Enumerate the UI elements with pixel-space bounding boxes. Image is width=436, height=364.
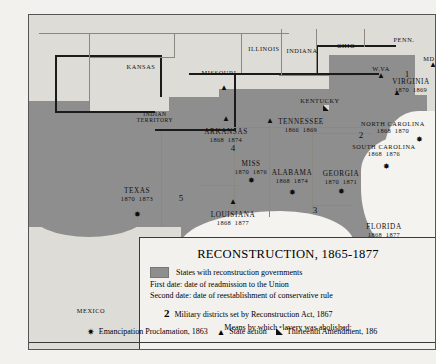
legend-second-date: Second date: date of reestablishment of … (150, 290, 426, 301)
place-name: MEXICO (77, 307, 105, 314)
place-label-missouri: MISSOURI (202, 69, 237, 76)
outline-indian-east (160, 55, 162, 97)
state-name: TENNESSEE (278, 118, 324, 126)
abolition-symbol-north-carolina: ✸ (416, 136, 423, 144)
legend-swatch-row: States with reconstruction governments (150, 267, 426, 278)
place-label-indian-territory: INDIAN TERRITORY (137, 111, 173, 124)
outline-arkansas-east (234, 73, 236, 131)
line-florida-north (312, 205, 352, 206)
state-label-texas: TEXAS1870 1873 (121, 187, 153, 202)
triangle-icon: ▲ (217, 327, 225, 337)
line-kansas-east (174, 33, 175, 57)
abolition-symbol-texas: ✸ (134, 211, 141, 219)
military-district-3: 3 (313, 205, 318, 215)
line-georgia-west (312, 125, 313, 209)
place-label-illinois: ILLINOIS (248, 45, 279, 52)
state-label-louisiana: LOUISIANA1868 1877 (211, 211, 256, 226)
place-label-ohio: OHIO (337, 42, 355, 49)
place-label-kentucky: KENTUCKY (300, 97, 339, 104)
legend-military-label: Military districts set by Reconstruction… (175, 310, 333, 319)
place-name: ILLINOIS (248, 45, 279, 52)
state-name: ALABAMA (272, 169, 313, 177)
state-name: LOUISIANA (211, 211, 256, 219)
legend-symbol-label-2: Thirteenth Amendment, 186 (287, 327, 377, 336)
state-name: TEXAS (121, 187, 153, 195)
legend-first-date: First date: date of readmission to the U… (150, 279, 426, 290)
place-label-penn: PENN. (393, 36, 414, 43)
place-name: OHIO (337, 42, 355, 49)
abolition-symbol-miss: ✸ (248, 177, 255, 185)
state-dates: 1870 1871 (323, 178, 360, 185)
military-district-1: 1 (405, 69, 410, 79)
abolition-symbol-tennessee: ▲ (266, 117, 274, 125)
state-label-arkansas: ARKANSAS1868 1874 (204, 128, 248, 143)
place-label-kansas: KANSAS (127, 63, 156, 70)
line-illinois-west (241, 33, 242, 73)
place-name: KANSAS (127, 63, 156, 70)
military-district-2: 2 (359, 130, 364, 140)
state-label-tennessee: TENNESSEE1866 1869 (278, 118, 324, 133)
state-dates: 1868 1874 (272, 177, 313, 184)
state-dates: 1868 1876 (352, 150, 416, 157)
military-district-4: 4 (231, 143, 236, 153)
abolition-symbol-alabama: ✸ (289, 189, 296, 197)
state-label-south-carolina: SOUTH CAROLINA1868 1876 (352, 143, 416, 157)
state-name: SOUTH CAROLINA (352, 143, 416, 150)
outline-virginia-north (316, 45, 396, 47)
state-dates: 1870 1873 (121, 195, 153, 202)
state-name: FLORIDA (366, 223, 401, 231)
place-label-indiana: INDIANA (286, 47, 317, 54)
place-name: PENN. (393, 36, 414, 43)
map-page: TEXAS1870 1873✸ARKANSAS1868 1874▲LOUISIA… (0, 0, 436, 364)
state-name: GEORGIA (323, 170, 360, 178)
abolition-symbol-missouri: ▲ (220, 84, 228, 92)
state-name: VIRGINIA (392, 78, 430, 86)
abolition-symbol-arkansas: ▲ (222, 115, 230, 123)
line-kansas-west (89, 33, 90, 111)
line-kansas-south (89, 57, 175, 58)
legend-symbol-label-0: Emancipation Proclamation, 1863 (99, 327, 208, 336)
place-name: MISSOURI (202, 69, 237, 76)
line-indiana-west (281, 29, 282, 75)
place-label-mexico: MEXICO (77, 307, 105, 314)
state-dates: 1868 1877 (211, 219, 256, 226)
legend-symbol-label-1: State action (229, 327, 267, 336)
map-plate: TEXAS1870 1873✸ARKANSAS1868 1874▲LOUISIA… (28, 14, 436, 350)
place-name: KENTUCKY (300, 97, 339, 104)
abolition-symbol-virginia: ▲ (393, 89, 401, 97)
line-penn-west (364, 29, 365, 47)
legend-baseline-rule (29, 342, 435, 343)
state-name: MISS (235, 160, 267, 168)
legend-swatch-label: States with reconstruction governments (176, 268, 302, 277)
state-name: NORTH CAROLINA (361, 120, 425, 127)
state-label-alabama: ALABAMA1868 1874 (272, 169, 313, 184)
state-label-north-carolina: NORTH CAROLINA1868 1870 (361, 120, 425, 134)
legend-military-number: 2 (164, 307, 170, 319)
legend-symbol-emancipation: ✷ Emancipation Proclamation, 1863 (87, 327, 208, 337)
state-label-georgia: GEORGIA1870 1871 (323, 170, 360, 185)
legend-military-row: 2 Military districts set by Reconstructi… (164, 307, 426, 319)
legend-symbol-strip: ✷ Emancipation Proclamation, 1863 ▲ Stat… (29, 324, 435, 339)
place-name: INDIAN TERRITORY (137, 111, 173, 124)
line-texas-east (161, 131, 162, 227)
abolition-symbol-w-va: ▲ (377, 72, 385, 80)
legend-symbol-state-action: ▲ State action (217, 327, 267, 337)
abolition-symbol-louisiana: ▲ (229, 198, 237, 206)
state-dates: 1868 1870 (361, 127, 425, 134)
line-louisiana-north (199, 185, 239, 186)
abolition-symbol-md: ▲ (429, 61, 436, 69)
state-name: ARKANSAS (204, 128, 248, 136)
line-kentucky-north (279, 75, 359, 76)
star-icon: ✷ (87, 327, 95, 337)
state-dates: 1870 1876 (235, 168, 267, 175)
abolition-symbol-kentucky (323, 105, 329, 111)
line-alabama-west (269, 127, 270, 217)
military-district-5: 5 (179, 193, 184, 203)
outline-indian-west (55, 55, 57, 112)
legend-title: RECONSTRUCTION, 1865-1877 (150, 247, 426, 262)
legend-swatch (150, 267, 169, 278)
square-icon (276, 328, 283, 335)
place-name: INDIANA (286, 47, 317, 54)
state-label-miss: MISS1870 1876 (235, 160, 267, 175)
legend-symbol-thirteenth: Thirteenth Amendment, 186 (276, 327, 377, 336)
